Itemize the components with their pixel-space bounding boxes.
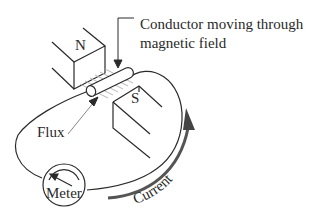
current-label: Current [131, 170, 176, 207]
flux-leader-arrow [68, 97, 98, 134]
conductor-label-line2: magnetic field [140, 36, 226, 51]
generator-diagram: Current [0, 0, 312, 216]
meter-label: Meter [46, 186, 82, 201]
south-pole-label: S [131, 91, 139, 106]
conductor-leader-arrow [114, 18, 134, 68]
flux-label: Flux [37, 125, 65, 140]
conductor-label-line1: Conductor moving through [140, 17, 303, 32]
north-pole-label: N [75, 38, 86, 53]
